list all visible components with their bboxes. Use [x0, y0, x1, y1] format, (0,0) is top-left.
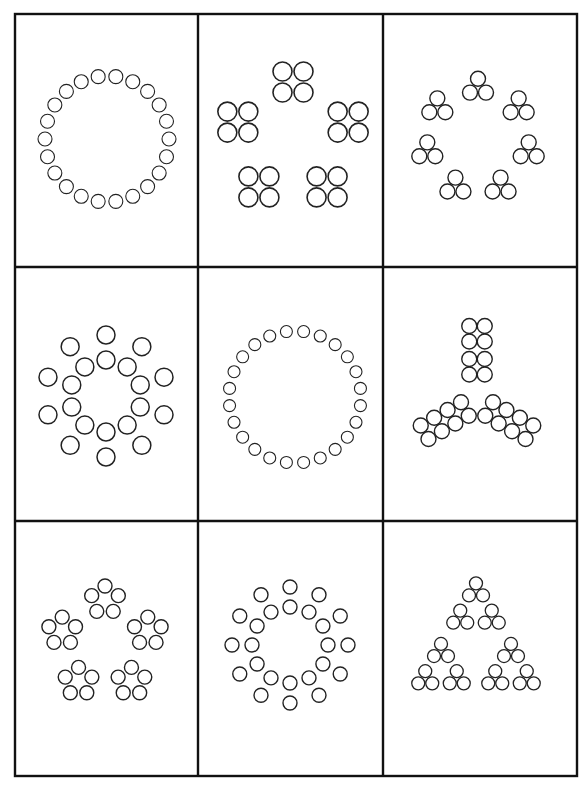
circle-dot	[133, 686, 147, 700]
circle-dot	[63, 635, 77, 649]
circle-dot	[462, 352, 477, 367]
circle-dot	[61, 338, 79, 356]
circle-dot	[55, 610, 69, 624]
circle-dot	[341, 431, 353, 443]
circle-dot	[499, 403, 514, 418]
circle-dot	[302, 605, 316, 619]
circle-dot	[349, 123, 368, 142]
circle-dot	[250, 619, 264, 633]
circle-dot	[131, 398, 149, 416]
circle-dot	[426, 677, 439, 690]
circle-dot	[492, 616, 505, 629]
circle-dot	[38, 132, 52, 146]
circle-dot	[72, 660, 86, 674]
pattern-cell-r2c2	[224, 326, 367, 469]
circle-dot	[116, 686, 130, 700]
circle-dot	[260, 167, 279, 186]
circle-dot	[63, 376, 81, 394]
circle-dot	[133, 635, 147, 649]
circle-dot	[428, 650, 441, 663]
circle-dot	[109, 194, 123, 208]
circle-dot	[435, 637, 448, 650]
circle-dot	[245, 638, 259, 652]
circle-dot	[264, 671, 278, 685]
circle-dot	[329, 443, 341, 455]
circle-dot	[280, 326, 292, 338]
circle-dot	[228, 416, 240, 428]
circle-dot	[312, 688, 326, 702]
circle-dot	[97, 326, 115, 344]
circle-dot	[239, 188, 258, 207]
circle-dot	[298, 326, 310, 338]
circle-dot	[428, 149, 443, 164]
circle-dot	[333, 609, 347, 623]
pattern-sheet	[0, 0, 583, 787]
circle-dot	[354, 400, 366, 412]
circle-dot	[42, 620, 56, 634]
circle-dot	[512, 650, 525, 663]
circle-dot	[302, 671, 316, 685]
circle-dot	[124, 660, 138, 674]
pattern-cell-r1c2	[218, 62, 368, 207]
circle-dot	[457, 677, 470, 690]
circle-dot	[249, 443, 261, 455]
circle-dot	[118, 358, 136, 376]
circle-dot	[218, 123, 237, 142]
circle-dot	[155, 406, 173, 424]
circle-dot	[91, 70, 105, 84]
circle-dot	[489, 665, 502, 678]
circle-dot	[477, 334, 492, 349]
circle-dot	[461, 616, 474, 629]
circle-dot	[440, 403, 455, 418]
circle-dot	[328, 123, 347, 142]
circle-dot	[254, 688, 268, 702]
circle-dot	[341, 638, 355, 652]
circle-dot	[118, 416, 136, 434]
circle-dot	[97, 423, 115, 441]
circle-dot	[61, 436, 79, 454]
circle-dot	[450, 665, 463, 678]
circle-dot	[462, 319, 477, 334]
circle-dot	[463, 589, 476, 602]
circle-dot	[149, 635, 163, 649]
circle-dot	[41, 150, 55, 164]
circle-dot	[69, 620, 83, 634]
circle-dot	[470, 577, 483, 590]
circle-dot	[505, 637, 518, 650]
circle-dot	[471, 71, 486, 86]
pattern-cell-r1c3	[412, 71, 544, 199]
pattern-grid-canvas	[0, 0, 583, 787]
circle-dot	[106, 604, 120, 618]
circle-dot	[85, 589, 99, 603]
circle-dot	[250, 657, 264, 671]
circle-dot	[350, 416, 362, 428]
circle-dot	[427, 410, 442, 425]
circle-dot	[131, 376, 149, 394]
circle-dot	[328, 102, 347, 121]
circle-dot	[412, 149, 427, 164]
circle-dot	[421, 431, 436, 446]
circle-dot	[341, 351, 353, 363]
circle-dot	[496, 677, 509, 690]
circle-dot	[413, 418, 428, 433]
circle-dot	[447, 616, 460, 629]
circle-dot	[448, 416, 463, 431]
circle-dot	[478, 616, 491, 629]
circle-dot	[233, 667, 247, 681]
circle-dot	[48, 166, 62, 180]
circle-dot	[63, 686, 77, 700]
circle-dot	[478, 408, 493, 423]
circle-dot	[237, 351, 249, 363]
circle-dot	[479, 85, 494, 100]
circle-dot	[59, 84, 73, 98]
circle-dot	[520, 665, 533, 678]
circle-dot	[349, 102, 368, 121]
circle-dot	[493, 170, 508, 185]
circle-dot	[333, 667, 347, 681]
circle-dot	[412, 677, 425, 690]
circle-dot	[519, 105, 534, 120]
circle-dot	[294, 62, 313, 81]
circle-dot	[350, 366, 362, 378]
cells	[38, 62, 544, 710]
circle-dot	[90, 604, 104, 618]
